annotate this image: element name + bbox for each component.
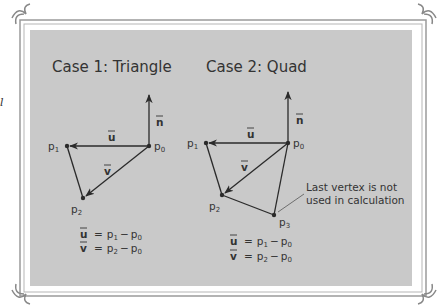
svg-text:v: v (104, 165, 111, 177)
corner-ornament-bottom-right-icon (418, 284, 436, 304)
case2-vertex-p3 (272, 213, 276, 217)
case1-vertex-p1 (65, 144, 69, 148)
annotation-line-1: Last vertex is not (306, 181, 397, 193)
annotation-line-2: used in calculation (306, 194, 405, 206)
svg-text:v: v (230, 250, 237, 262)
case1-title: Case 1: Triangle (52, 58, 172, 76)
case2-vertex-p0 (286, 141, 290, 145)
corner-ornament-top-left-icon (12, 4, 30, 24)
case1-label-n: n (156, 116, 163, 128)
case2-label-v: v (241, 161, 248, 173)
corner-ornament-bottom-left-icon (12, 284, 30, 304)
case1-label-v: v (104, 165, 111, 177)
svg-text:v: v (241, 161, 248, 173)
svg-text:n: n (296, 114, 303, 126)
case1-label-u: u (108, 131, 115, 143)
case1-vertex-p0 (147, 144, 151, 148)
svg-text:u: u (230, 235, 237, 247)
svg-text:u: u (80, 228, 87, 240)
case2-vertex-p1 (204, 141, 208, 145)
svg-text:u: u (108, 131, 115, 143)
case1-vertex-p2 (81, 196, 85, 200)
case2-title: Case 2: Quad (206, 58, 307, 76)
diagram-canvas: Case 1: Triangle p0 p1 p2 u v n u =p1−p0… (0, 0, 448, 306)
case2-vertex-p2 (220, 193, 224, 197)
corner-ornament-top-right-icon (418, 4, 436, 24)
svg-text:v: v (80, 242, 87, 254)
svg-text:n: n (156, 116, 163, 128)
case2-label-n: n (296, 114, 303, 126)
svg-text:u: u (247, 128, 254, 140)
case2-label-u: u (247, 128, 254, 140)
